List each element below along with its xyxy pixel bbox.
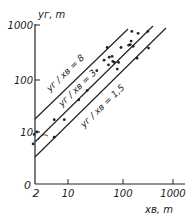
data-point <box>111 55 114 58</box>
data-point <box>106 46 109 49</box>
annotation-bracket <box>38 135 48 140</box>
data-point <box>137 32 140 35</box>
data-point <box>63 118 66 121</box>
data-point <box>130 40 133 43</box>
data-point <box>107 63 110 66</box>
y-axis-title: yг, m <box>37 9 66 20</box>
data-point <box>117 61 120 64</box>
x-tick-label-100: 100 <box>113 188 132 199</box>
data-point <box>130 30 133 33</box>
x-tick-label-1000: 1000 <box>160 188 185 199</box>
data-point <box>36 131 39 134</box>
data-point <box>129 43 132 46</box>
ref-line-label-1-5: yг / xв = 1,5 <box>78 82 127 130</box>
data-point <box>33 133 36 136</box>
data-point <box>53 136 56 139</box>
data-point <box>146 30 149 33</box>
x-tick-label-2: 2 <box>33 187 40 200</box>
y-tick-label-0: 0 <box>24 179 31 192</box>
data-point <box>95 69 98 72</box>
data-point <box>103 59 106 62</box>
data-point <box>147 47 150 50</box>
data-point <box>86 89 89 92</box>
x-axis-title: xв, m <box>144 204 173 215</box>
data-point <box>108 56 111 59</box>
log-log-scatter-chart: 1000 100 10 0 2 10 100 1000 yг, m xв, m … <box>0 0 195 223</box>
ref-line-ratio-8 <box>35 29 128 119</box>
data-point <box>113 61 116 64</box>
data-point <box>77 98 80 101</box>
data-point <box>120 46 123 49</box>
data-point <box>136 57 139 60</box>
data-point <box>116 68 119 71</box>
y-tick-label-1000: 1000 <box>8 20 33 31</box>
data-point <box>32 143 35 146</box>
data-point <box>132 45 135 48</box>
x-tick-label-10: 10 <box>62 188 75 199</box>
data-point <box>53 118 56 121</box>
y-tick-label-100: 100 <box>14 75 33 86</box>
y-tick-label-10: 10 <box>20 127 33 138</box>
